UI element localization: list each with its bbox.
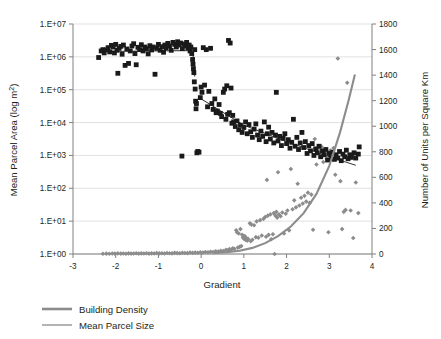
data-point-square <box>288 146 293 151</box>
y-tick-label: 1.E+02 <box>40 184 67 193</box>
data-point-square <box>120 52 125 57</box>
data-point-square <box>224 83 229 88</box>
data-point-square <box>191 62 196 67</box>
data-point-square <box>356 152 361 157</box>
y-tick-label: 1.E+05 <box>40 86 67 95</box>
data-point-diamond <box>345 80 350 85</box>
data-point-diamond <box>295 181 300 186</box>
data-point-square <box>190 57 195 62</box>
chart-container: 1.E+001.E+011.E+021.E+031.E+041.E+051.E+… <box>0 0 441 339</box>
y2-axis-ticks: 020040060080010001200140016001800 <box>372 20 398 259</box>
x-tick-label: -2 <box>112 262 120 271</box>
data-point-square <box>260 134 265 139</box>
x-tick-label: 2 <box>284 262 289 271</box>
data-point-square <box>217 102 222 107</box>
x-axis-title: Gradient <box>204 279 241 290</box>
y2-tick-label: 600 <box>379 173 393 182</box>
data-point-square <box>204 47 209 52</box>
data-point-diamond <box>276 170 281 175</box>
data-point-square <box>250 135 255 140</box>
data-point-square <box>317 144 322 149</box>
data-point-square <box>192 47 197 52</box>
data-point-square <box>133 51 138 56</box>
data-point-square <box>344 148 349 153</box>
data-point-square <box>282 131 287 136</box>
data-point-square <box>115 71 120 76</box>
x-axis-ticks: -3-2-101234 <box>69 254 374 271</box>
data-point-square <box>279 143 284 148</box>
data-point-diamond <box>260 233 265 238</box>
y-axis-ticks: 1.E+001.E+011.E+021.E+031.E+041.E+051.E+… <box>40 20 73 259</box>
y2-tick-label: 1200 <box>379 97 398 106</box>
data-point-diamond <box>272 252 277 257</box>
data-point-square <box>266 125 271 130</box>
data-point-square <box>264 139 269 144</box>
data-point-diamond <box>356 211 361 216</box>
x-tick-label: -3 <box>69 262 77 271</box>
data-point-square <box>253 121 258 126</box>
data-point-diamond <box>289 167 294 172</box>
data-point-square <box>194 106 199 111</box>
x-tick-label: 4 <box>370 262 375 271</box>
y2-tick-label: 0 <box>379 250 384 259</box>
plot-axes <box>73 24 372 254</box>
data-point-diamond <box>292 198 297 203</box>
data-point-square <box>191 70 196 75</box>
scatter-chart: 1.E+001.E+011.E+021.E+031.E+041.E+051.E+… <box>0 0 441 339</box>
y-tick-label: 1.E+06 <box>40 53 67 62</box>
y-tick-label: 1.E+00 <box>40 250 67 259</box>
y2-tick-label: 1000 <box>379 122 398 131</box>
data-point-square <box>200 90 205 95</box>
data-point-square <box>291 117 296 122</box>
data-point-square <box>208 46 213 51</box>
data-point-square <box>206 89 211 94</box>
y2-tick-label: 400 <box>379 199 393 208</box>
data-point-square <box>271 141 276 146</box>
x-tick-label: 0 <box>199 262 204 271</box>
y2-tick-label: 1400 <box>379 71 398 80</box>
data-point-square <box>298 141 303 146</box>
y-axis-title: Mean Parcel Area (log m2) <box>8 84 20 197</box>
legend-label: Mean Parcel Size <box>79 320 154 331</box>
data-point-square <box>205 104 210 109</box>
data-point-square <box>219 114 224 119</box>
data-point-square <box>274 90 279 95</box>
legend-label: Building Density <box>79 304 148 315</box>
y-tick-label: 1.E+03 <box>40 151 67 160</box>
data-point-square <box>96 55 101 60</box>
data-point-square <box>357 144 362 149</box>
data-point-square <box>197 150 202 155</box>
x-tick-label: 1 <box>242 262 247 271</box>
data-point-square <box>131 41 136 46</box>
fit-line-building-density-fit <box>214 74 355 253</box>
y-tick-label: 1.E+01 <box>40 217 67 226</box>
data-point-diamond <box>271 232 276 237</box>
data-point-square <box>310 141 315 146</box>
y2-tick-label: 200 <box>379 224 393 233</box>
chart-legend: Building DensityMean Parcel Size <box>42 304 154 331</box>
data-point-diamond <box>238 227 243 232</box>
data-point-square <box>294 135 299 140</box>
data-point-square <box>169 48 174 53</box>
data-point-diamond <box>265 178 270 183</box>
data-point-diamond <box>311 227 316 232</box>
data-point-square <box>240 130 245 135</box>
data-point-diamond <box>353 180 358 185</box>
x-tick-label: -1 <box>155 262 163 271</box>
data-point-square <box>352 150 357 155</box>
y-tick-label: 1.E+07 <box>40 20 67 29</box>
data-point-square <box>192 79 197 84</box>
data-point-square <box>202 83 207 88</box>
data-point-square <box>300 130 305 135</box>
data-point-square <box>194 101 199 106</box>
y2-tick-label: 1600 <box>379 46 398 55</box>
data-point-diamond <box>326 230 331 235</box>
data-point-diamond <box>321 160 326 165</box>
data-point-square <box>229 86 234 91</box>
x-tick-label: 3 <box>327 262 332 271</box>
data-point-square <box>228 41 233 46</box>
data-point-diamond <box>312 137 317 142</box>
data-point-square <box>180 154 185 159</box>
y2-tick-label: 1800 <box>379 20 398 29</box>
y2-tick-label: 800 <box>379 148 393 157</box>
